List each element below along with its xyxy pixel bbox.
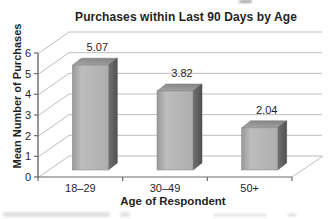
cropped-text-artifact-top [239,0,252,3]
x-axis-title: Age of Respondent [12,195,334,207]
y-tick-label: 0 [25,171,31,183]
x-category-label: 50+ [240,182,259,194]
bar-side-face [108,58,117,170]
y-tick-label: 6 [25,47,31,59]
bar-value-label: 3.82 [171,67,192,79]
chart-canvas: Purchases within Last 90 Days by Age Mea… [0,0,334,219]
bar-side-face [278,121,287,170]
gridline-diagonal [39,135,69,156]
cropped-text-artifact-bottom [213,213,267,217]
cropped-text-artifact-bottom [287,213,297,217]
gridline-diagonal [39,156,69,177]
y-tick-label: 4 [25,88,31,100]
floor-right-edge [292,156,323,177]
bar-chart-plot: 012345618–2930–4950+5.073.822.04 [0,0,334,219]
cropped-text-artifact-bottom [3,212,110,217]
bar-front-face [242,128,278,170]
x-category-label: 18–29 [65,182,96,194]
x-category-label: 30–49 [150,182,181,194]
bar-side-face [193,84,202,170]
gridline-diagonal [39,115,69,136]
gridline-diagonal [39,94,69,115]
bar-value-label: 5.07 [87,41,108,53]
gridline-diagonal [39,53,69,74]
y-tick-label: 3 [25,109,31,121]
y-tick-label: 2 [25,130,31,142]
bar-front-face [72,65,108,170]
gridline-diagonal [39,73,69,94]
gridline-diagonal [39,32,69,53]
bar-front-face [157,91,193,170]
y-tick-label: 5 [25,68,31,80]
bar-value-label: 2.04 [256,104,277,116]
y-tick-label: 1 [25,150,31,162]
cropped-text-artifact-bottom [120,212,130,217]
